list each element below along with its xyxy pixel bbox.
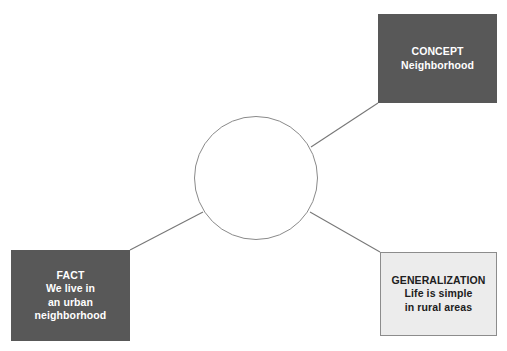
node-fact-line-3: an urban xyxy=(48,296,93,310)
node-concept-line-1: CONCEPT xyxy=(411,45,463,59)
node-generalization-line-1: GENERALIZATION xyxy=(392,274,486,288)
concept-diagram-canvas: CONCEPT Neighborhood FACT We live in an … xyxy=(0,0,507,351)
node-generalization-line-2: Life is simple xyxy=(405,287,473,301)
connector-circle-to-fact xyxy=(130,212,203,250)
node-fact-line-2: We live in xyxy=(46,282,95,296)
node-concept[interactable]: CONCEPT Neighborhood xyxy=(378,14,497,103)
node-fact-line-1: FACT xyxy=(57,269,85,283)
node-generalization[interactable]: GENERALIZATION Life is simple in rural a… xyxy=(380,252,497,336)
node-fact-line-4: neighborhood xyxy=(35,309,107,323)
connector-circle-to-generalization xyxy=(310,212,380,252)
node-concept-line-2: Neighborhood xyxy=(401,59,474,73)
node-fact[interactable]: FACT We live in an urban neighborhood xyxy=(11,250,130,341)
connector-circle-to-concept xyxy=(311,103,378,147)
node-generalization-line-3: in rural areas xyxy=(405,301,472,315)
center-circle-node[interactable] xyxy=(194,116,318,240)
